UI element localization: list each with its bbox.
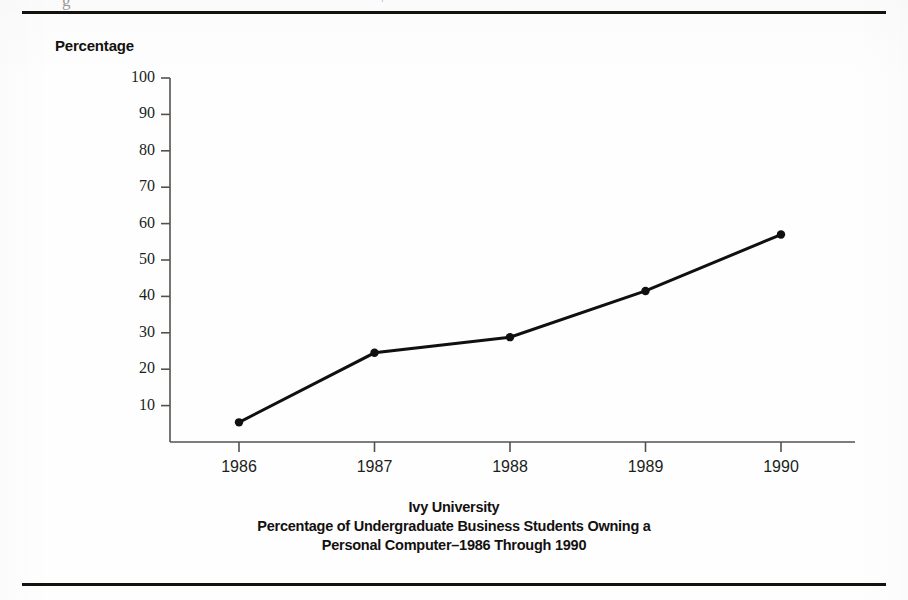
bottom-divider-rule	[22, 583, 886, 586]
data-point-1986	[235, 418, 243, 426]
y-tick-label-30: 30	[115, 323, 155, 341]
caption-line-2: Percentage of Undergraduate Business Stu…	[0, 517, 908, 536]
x-tick-label-1988: 1988	[475, 458, 545, 476]
x-tick-label-1990: 1990	[746, 458, 816, 476]
y-tick-label-80: 80	[115, 141, 155, 159]
data-series-line	[239, 235, 781, 423]
y-tick-label-50: 50	[115, 250, 155, 268]
x-tick-label-1986: 1986	[204, 458, 274, 476]
y-tick-label-20: 20	[115, 359, 155, 377]
y-tick-label-10: 10	[115, 396, 155, 414]
y-tick-label-60: 60	[115, 214, 155, 232]
data-point-1990	[777, 230, 785, 238]
caption-line-1: Ivy University	[0, 498, 908, 517]
x-tick-label-1989: 1989	[611, 458, 681, 476]
data-point-1989	[641, 287, 649, 295]
data-point-markers	[235, 230, 785, 426]
x-tick-label-1987: 1987	[340, 458, 410, 476]
figure-page: g ¬ Percentage 102030405060708090100 198…	[0, 0, 908, 600]
chart-axes	[170, 78, 855, 442]
y-tick-label-90: 90	[115, 104, 155, 122]
caption-line-3: Personal Computer–1986 Through 1990	[0, 536, 908, 555]
y-tick-label-100: 100	[115, 68, 155, 86]
y-tick-label-40: 40	[115, 286, 155, 304]
y-tick-label-70: 70	[115, 177, 155, 195]
chart-tick-marks	[161, 78, 781, 452]
data-point-1987	[370, 349, 378, 357]
figure-caption: Ivy University Percentage of Undergradua…	[0, 498, 908, 555]
data-point-1988	[506, 333, 514, 341]
